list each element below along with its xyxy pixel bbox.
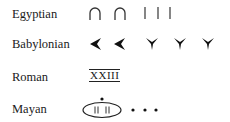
egyptian-ten-icon (113, 7, 127, 21)
label-roman: Roman (12, 70, 48, 84)
mayan-shell-glyph-icon (81, 96, 123, 120)
mayan-dot-icon (154, 108, 158, 112)
mayan-dot-icon (143, 108, 147, 112)
roman-numeral: XXIII (89, 69, 120, 82)
label-mayan: Mayan (12, 102, 47, 116)
egyptian-one-icon (156, 6, 160, 20)
label-egyptian: Egyptian (12, 7, 57, 21)
babylonian-one-wedge-icon (173, 37, 187, 51)
egyptian-one-icon (143, 6, 147, 20)
babylonian-one-wedge-icon (145, 37, 159, 51)
row-babylonian: Babylonian (0, 35, 230, 59)
label-babylonian: Babylonian (12, 37, 70, 51)
row-roman: Roman XXIII (0, 68, 230, 92)
mayan-dot-icon (131, 108, 135, 112)
egyptian-ten-icon (88, 7, 102, 21)
row-mayan: Mayan (0, 96, 230, 120)
babylonian-one-wedge-icon (201, 37, 215, 51)
row-egyptian: Egyptian (0, 5, 230, 29)
babylonian-ten-wedge-icon (113, 37, 127, 51)
babylonian-ten-wedge-icon (89, 37, 103, 51)
egyptian-one-icon (168, 6, 172, 20)
